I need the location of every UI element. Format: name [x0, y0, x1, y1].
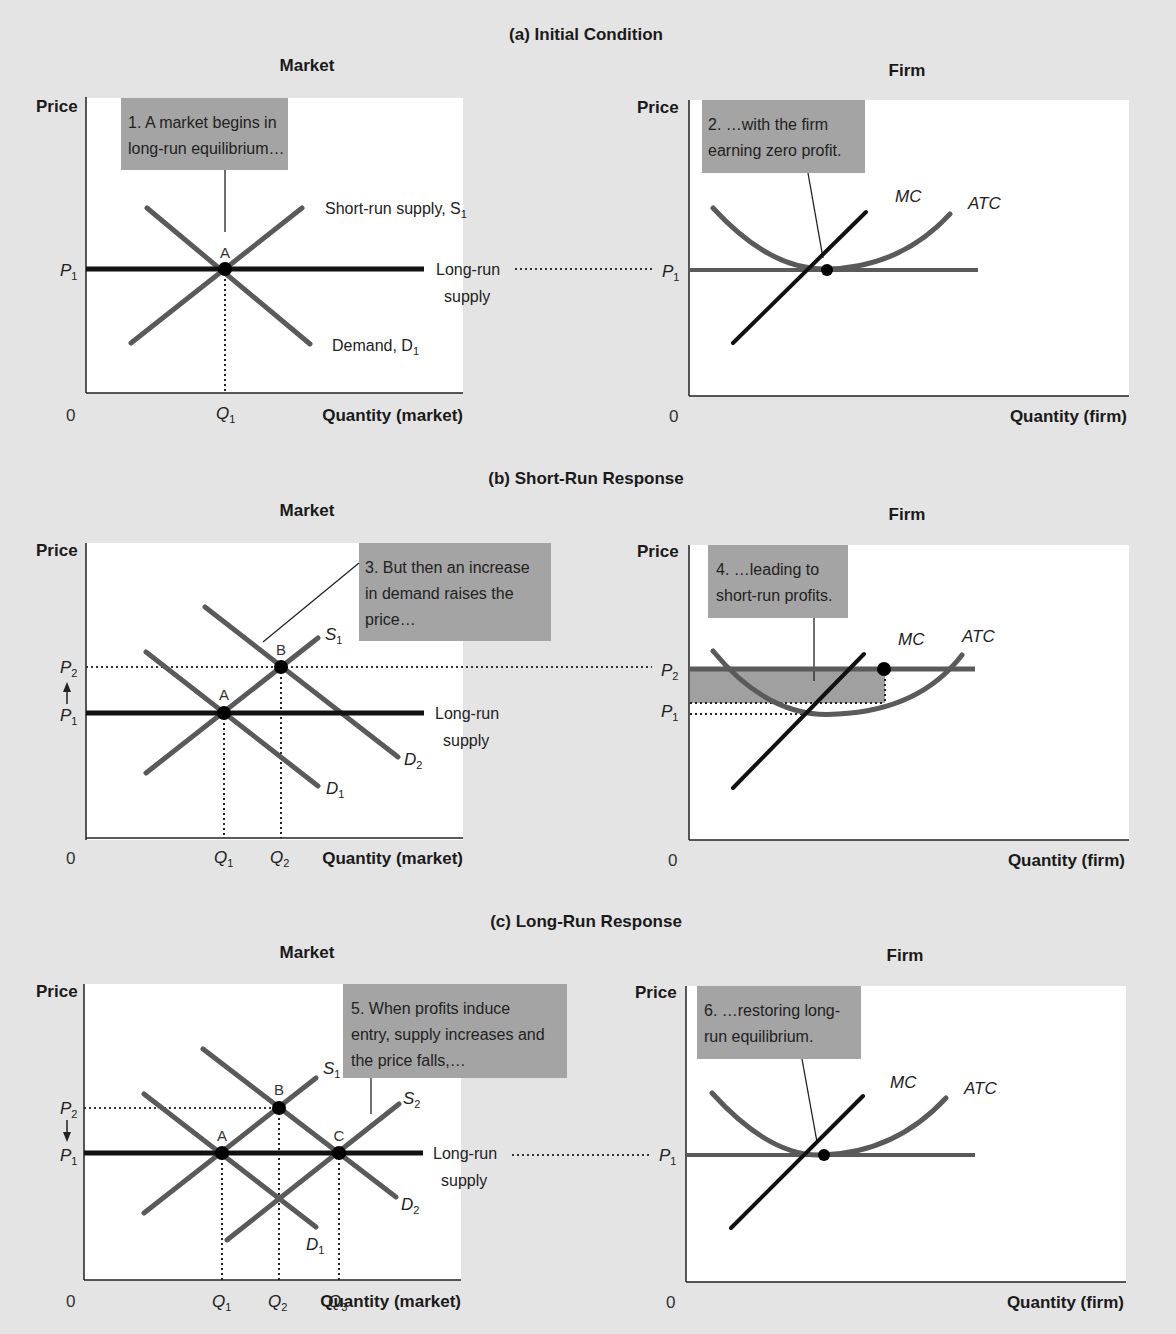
p1-label: P1 [60, 706, 77, 727]
q1-label: Q1 [214, 848, 233, 869]
p2-label: P2 [60, 1099, 77, 1120]
chart-title: Firm [887, 946, 924, 965]
equilibrium-point-b [274, 660, 288, 674]
equilibrium-point-a [218, 262, 232, 276]
equilibrium-point-a [215, 1146, 229, 1160]
x-axis-label: Quantity (market) [322, 406, 463, 425]
point-label-b: B [276, 641, 286, 658]
x-axis-label: Quantity (firm) [1008, 851, 1125, 870]
arrow-up-icon [63, 682, 71, 704]
chart-title: Firm [889, 61, 926, 80]
y-axis-label: Price [36, 541, 78, 560]
panel-title: (b) Short-Run Response [488, 469, 684, 488]
point-label-b: B [274, 1081, 284, 1098]
chart-title: Market [280, 56, 335, 75]
origin-label: 0 [666, 1293, 675, 1312]
market-chart-b: Market Price Quantity (market) 0 3. But … [36, 501, 652, 869]
q1-label: Q1 [212, 1292, 231, 1313]
panel-title: (c) Long-Run Response [490, 912, 682, 931]
y-axis-label: Price [635, 983, 677, 1002]
profit-area [690, 669, 885, 703]
origin-label: 0 [66, 406, 75, 425]
mc-label: MC [890, 1073, 917, 1092]
p2-label: P2 [60, 658, 77, 679]
mc-label: MC [895, 187, 922, 206]
callout-box [121, 98, 288, 170]
market-chart-a: Market Price Quantity (market) 0 1. A ma… [36, 56, 505, 425]
market-chart-c: Market Price Quantity (market) 0 5. When… [36, 943, 567, 1313]
y-axis-label: Price [637, 542, 679, 561]
p1-label: P1 [659, 1146, 676, 1167]
point-label-a: A [217, 1127, 227, 1144]
panel-title: (a) Initial Condition [509, 25, 663, 44]
atc-label: ATC [963, 1079, 997, 1098]
p1-label: P1 [60, 1146, 77, 1167]
q1-label: Q1 [216, 404, 235, 425]
p1-label: P1 [661, 702, 678, 723]
equilibrium-point-b [272, 1101, 286, 1115]
callout-mask [313, 543, 365, 641]
equilibrium-point [821, 264, 833, 276]
y-axis-label: Price [637, 98, 679, 117]
q2-label: Q2 [270, 848, 289, 869]
firm-chart-b: Firm Price Quantity (firm) 0 4. …leading… [637, 505, 1129, 870]
point-label-a: A [220, 244, 230, 261]
chart-title: Market [280, 501, 335, 520]
chart-title: Firm [889, 505, 926, 524]
arrow-down-icon [63, 1120, 71, 1142]
y-axis-label: Price [36, 982, 78, 1001]
chart-title: Market [280, 943, 335, 962]
callout-box [697, 986, 861, 1059]
x-axis-label: Quantity (firm) [1007, 1293, 1124, 1312]
mc-label: MC [898, 630, 925, 649]
q2-label: Q2 [268, 1292, 287, 1313]
x-axis-label: Quantity (firm) [1010, 407, 1127, 426]
equilibrium-point [818, 1149, 830, 1161]
atc-label: ATC [961, 627, 995, 646]
point-label-c: C [334, 1127, 345, 1144]
origin-label: 0 [668, 851, 677, 870]
economics-figure: (a) Initial Condition Market Price Quant… [0, 0, 1176, 1334]
origin-label: 0 [66, 1292, 75, 1311]
profit-max-point [877, 662, 891, 676]
equilibrium-point-a [217, 706, 231, 720]
callout-box [702, 100, 865, 173]
callout-box [708, 545, 848, 618]
firm-chart-c: Firm Price Quantity (firm) 0 6. …restori… [635, 946, 1126, 1312]
x-axis-label: Quantity (market) [322, 849, 463, 868]
point-label-a: A [219, 686, 229, 703]
p2-label: P2 [661, 661, 678, 682]
firm-chart-a: Firm Price Quantity (firm) 0 2. …with th… [637, 61, 1129, 426]
origin-label: 0 [66, 849, 75, 868]
panel-a: (a) Initial Condition Market Price Quant… [36, 25, 1129, 426]
y-axis-label: Price [36, 97, 78, 116]
figure-stage: (a) Initial Condition Market Price Quant… [0, 0, 1176, 1334]
panel-c: (c) Long-Run Response Market Price Quant… [36, 912, 1126, 1313]
p1-label: P1 [60, 261, 77, 282]
p1-label: P1 [662, 262, 679, 283]
origin-label: 0 [669, 407, 678, 426]
atc-label: ATC [967, 194, 1001, 213]
panel-b: (b) Short-Run Response Market Price Quan… [36, 469, 1129, 870]
equilibrium-point-c [332, 1146, 346, 1160]
